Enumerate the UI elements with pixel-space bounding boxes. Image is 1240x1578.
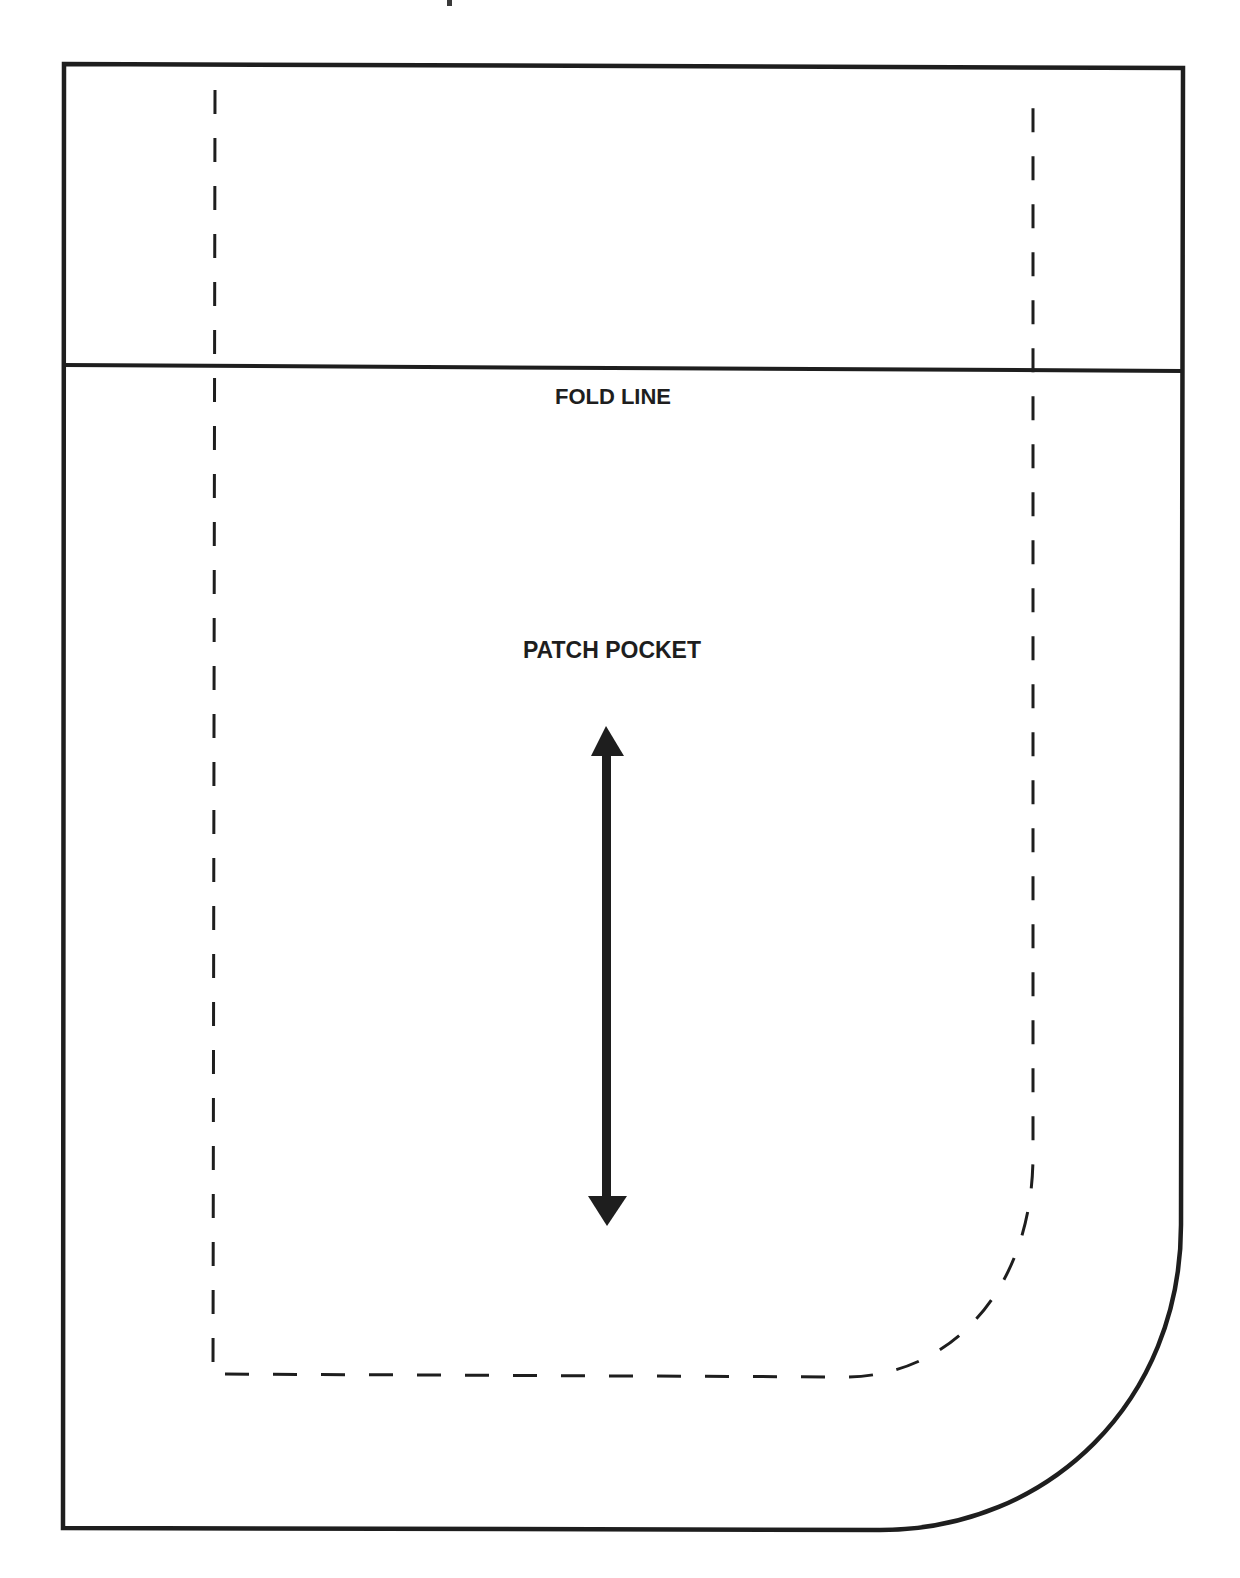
grain-line-double-arrow-icon (588, 726, 627, 1226)
pattern-piece-name: PATCH POCKET (523, 637, 701, 664)
fold-line (64, 365, 1182, 371)
stitch-line-dashed (213, 90, 1033, 1377)
patch-pocket-pattern-drawing (0, 0, 1240, 1578)
cutting-outline (63, 64, 1183, 1530)
scan-artifact-mark (447, 0, 452, 6)
fold-line-label: FOLD LINE (555, 384, 671, 410)
